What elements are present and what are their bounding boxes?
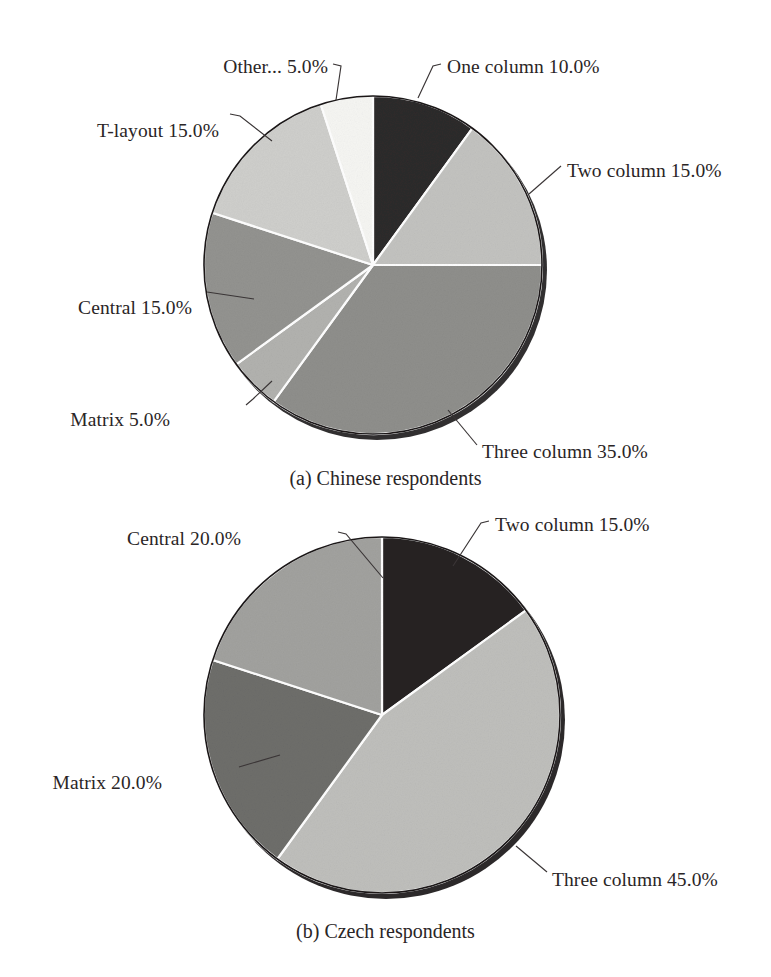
pie-a-slices (204, 96, 542, 434)
pie-a-label-three-column: Three column 35.0% (482, 441, 648, 463)
pie-b-label-central: Central 20.0% (0, 528, 241, 550)
leader-one-column (418, 64, 441, 98)
figure-pie-charts: One column 10.0%Two column 15.0%Three co… (0, 0, 771, 977)
leader-other (333, 64, 341, 100)
caption-chart-a: (a) Chinese respondents (0, 467, 771, 490)
pie-b-slices (204, 537, 560, 893)
leader-two-column (529, 166, 561, 194)
pie-a-label-t-layout: T-layout 15.0% (0, 120, 219, 142)
caption-chart-b: (b) Czech respondents (0, 920, 771, 943)
pie-a-label-one-column: One column 10.0% (447, 56, 600, 78)
pie-a-label-central: Central 15.0% (0, 297, 192, 319)
pie-a-label-two-column: Two column 15.0% (567, 160, 722, 182)
leader-three-column (516, 846, 547, 872)
pie-a-label-matrix: Matrix 5.0% (0, 409, 170, 431)
pie-b-label-three-column: Three column 45.0% (552, 869, 718, 891)
pie-b-label-two-column: Two column 15.0% (495, 514, 650, 536)
pie-b-label-matrix: Matrix 20.0% (0, 772, 162, 794)
pie-a-label-other: Other... 5.0% (0, 56, 328, 78)
